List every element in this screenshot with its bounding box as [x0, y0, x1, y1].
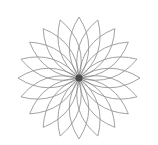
- mandala-core: [76, 75, 83, 82]
- mandala-figure: [0, 0, 158, 145]
